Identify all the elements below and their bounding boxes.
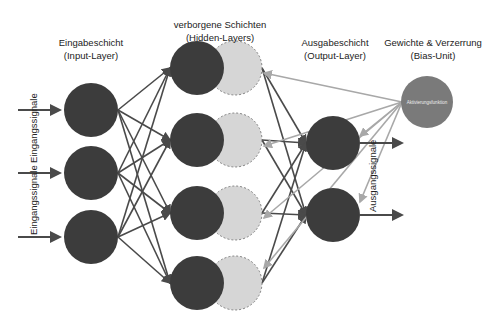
bias-node-text: Aktivierungsfunktion [407,100,448,105]
input-nodes [64,83,118,264]
input-signal-arrows [18,110,60,237]
input-node [64,146,118,200]
input-node [64,83,118,137]
input-node [64,210,118,264]
input-hidden-edges [118,68,170,283]
output-nodes [306,116,360,242]
output-signals-label: Ausgangssignale [367,140,378,212]
output-layer-label: Ausgabeschicht (Output-Layer) [295,36,375,62]
hidden-nodes [170,41,224,310]
hidden-layer-label: verborgene Schichten (Hidden-Layers) [165,18,275,44]
input-signals-label-2: Eingangssignale [28,93,39,163]
input-layer-label: Eingabeschicht (Input-Layer) [55,36,127,62]
hidden-output-edges [262,68,306,283]
bias-label: Gewichte & Verzerrung (Bias-Unit) [383,36,483,62]
input-signals-label-1: Eingangssignale [28,165,39,235]
